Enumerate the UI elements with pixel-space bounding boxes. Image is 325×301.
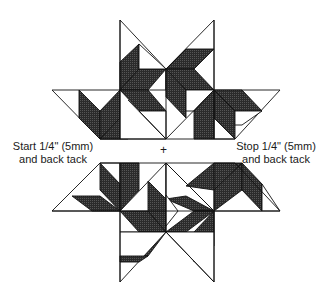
lower-half <box>52 163 280 282</box>
start-label-line1: Start 1/4" (5mm) <box>4 140 102 153</box>
upper-half <box>52 20 280 139</box>
stop-annotation: Stop 1/4" (5mm) and back tack <box>228 140 324 166</box>
stop-label-line2: and back tack <box>228 153 324 166</box>
stop-label-line1: Stop 1/4" (5mm) <box>228 140 324 153</box>
start-label-line2: and back tack <box>4 153 102 166</box>
start-annotation: Start 1/4" (5mm) and back tack <box>4 140 102 166</box>
center-mark: + <box>160 143 167 157</box>
